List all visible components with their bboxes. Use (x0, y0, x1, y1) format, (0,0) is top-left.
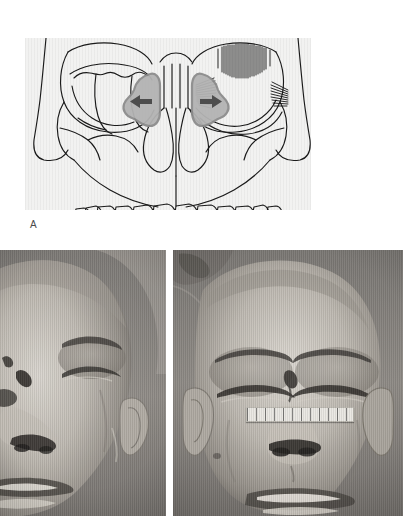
cheek-abrasion (213, 453, 221, 459)
panel-a-skull-diagram: A (0, 0, 403, 248)
right-zygomatic-buttress (244, 128, 284, 160)
right-maxillary-body (186, 160, 270, 207)
right-nostril (39, 446, 53, 454)
maxillary-teeth (75, 204, 282, 236)
clinical-photo-right (173, 250, 403, 516)
clinical-photograph-strip (0, 250, 403, 516)
figure-root: A (0, 0, 403, 516)
nasion-glabella (160, 53, 192, 62)
left-supraorbital-rim (68, 43, 152, 64)
measurement-scale (246, 407, 354, 422)
panel-a-label: A (30, 219, 37, 230)
superior-orbital-rim-hatching (218, 44, 270, 78)
ruler-ticks (247, 408, 353, 421)
frontal-skull-illustration (0, 0, 403, 248)
left-zygomatic-buttress (60, 128, 100, 160)
left-nostril (14, 444, 30, 452)
left-nostril (272, 448, 290, 457)
clinical-photo-right-canvas (173, 250, 403, 516)
left-maxillary-body (74, 160, 158, 207)
clinical-photo-left-canvas (0, 250, 166, 516)
right-nostril (298, 448, 316, 457)
clinical-photo-left (0, 250, 166, 516)
left-orbital-fracture-line-2 (74, 72, 148, 78)
